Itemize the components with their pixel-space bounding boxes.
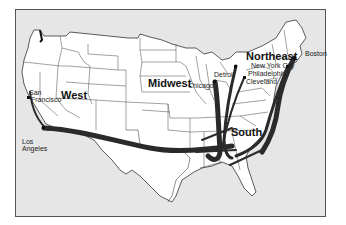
city-label-chicago: Chicago (188, 82, 214, 89)
us-landmass (22, 20, 306, 202)
city-label-philadelphia: Philadelphia (248, 70, 286, 77)
city-label-detroit: Detroit (214, 71, 235, 78)
city-label-san: San (29, 89, 41, 96)
city-label-new-york-city: New York City (251, 62, 295, 69)
region-label-south: South (231, 127, 262, 138)
city-label-los-angeles: Los Angeles (22, 138, 47, 153)
region-label-northeast: Northeast (246, 51, 297, 62)
region-label-midwest: Midwest (148, 78, 191, 89)
city-label-cleveland: Cleveland (246, 78, 277, 85)
us-map (0, 0, 346, 225)
city-label-boston: Boston (305, 50, 327, 57)
region-label-west: West (61, 90, 87, 101)
city-label-san-francisco: Francisco (31, 96, 61, 103)
